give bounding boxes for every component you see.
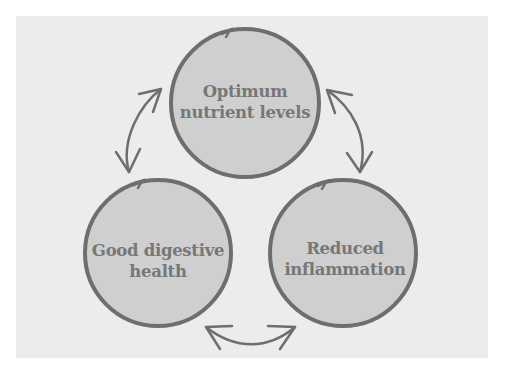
node-label-line: health	[83, 261, 233, 282]
node-label-line: nutrient levels	[170, 102, 320, 123]
node-label-line: Reduced	[270, 238, 420, 259]
node-label-line: Good digestive	[83, 240, 233, 261]
bidirectional-arrow-icon-left	[116, 89, 161, 172]
node-label-optimum-nutrient-levels: Optimum nutrient levels	[170, 81, 320, 123]
node-label-reduced-inflammation: Reduced inflammation	[270, 238, 420, 280]
node-label-line: Optimum	[170, 81, 320, 102]
cycle-diagram	[0, 0, 505, 372]
node-label-good-digestive-health: Good digestive health	[83, 240, 233, 282]
bidirectional-arrow-icon-bottom	[206, 326, 295, 349]
bidirectional-arrow-icon-right	[327, 90, 372, 172]
node-label-line: inflammation	[270, 259, 420, 280]
